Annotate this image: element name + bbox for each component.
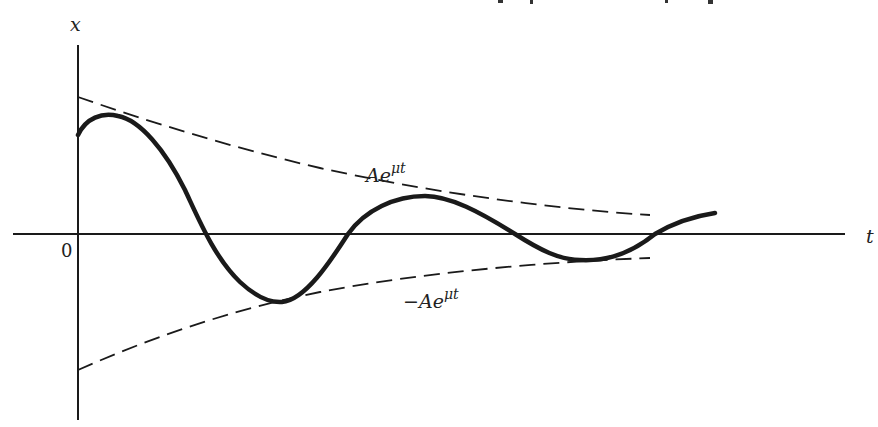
cropped-text-fragment [498,0,713,4]
y-axis-label: x [70,13,81,35]
t-axis-label: t [866,225,874,247]
damped-oscillation-figure: x t 0 Aeμt −Aeμt [0,0,878,427]
damped-oscillation-curve [78,115,715,302]
lower-envelope-label-base: −Ae [403,290,444,312]
lower-envelope-label: −Aeμt [403,286,459,312]
upper-envelope-label-exponent: μt [391,160,406,176]
origin-label: 0 [61,240,72,261]
upper-envelope-label-base: Ae [364,164,391,186]
lower-envelope-label-exponent: μt [444,286,459,302]
upper-envelope-label: Aeμt [364,160,406,186]
lower-envelope-curve [78,258,650,370]
